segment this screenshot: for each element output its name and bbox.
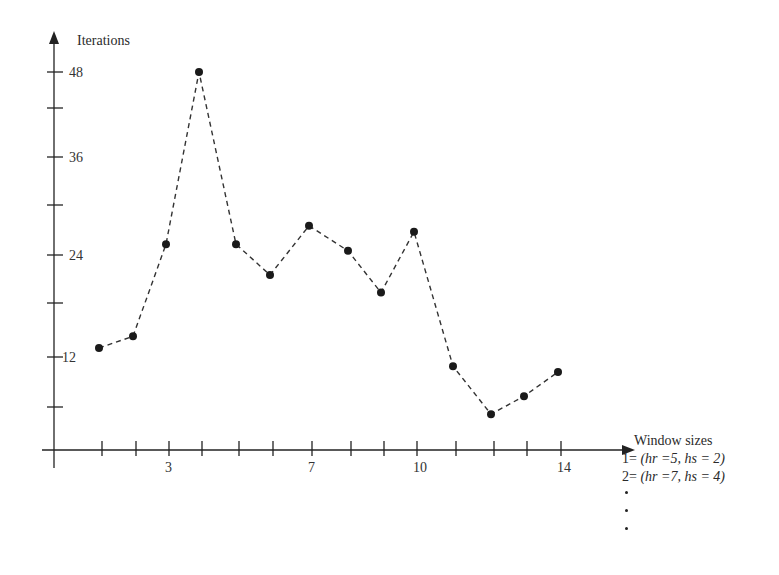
y-tick-label: 36 (69, 150, 83, 165)
chart-axes (42, 31, 635, 468)
x-tick-label: 3 (165, 460, 172, 475)
data-point (95, 344, 103, 352)
legend-entry-prefix: 1= (622, 451, 640, 466)
data-point (305, 222, 313, 230)
data-point (232, 240, 240, 248)
y-tick-label: 48 (69, 65, 83, 80)
legend-entry-text: (hr =7, hs = 4) (640, 469, 725, 484)
data-point (129, 332, 137, 340)
y-axis-title: Iterations (77, 34, 130, 48)
data-point (554, 368, 562, 376)
y-tick-label: 24 (69, 248, 83, 263)
x-tick-label: 7 (308, 460, 315, 475)
x-tick-label: 10 (413, 460, 427, 475)
data-point (377, 289, 385, 297)
data-point-markers (95, 68, 562, 418)
data-point (195, 68, 203, 76)
legend-entry-1: 1= (hr =5, hs = 2) (622, 452, 725, 466)
legend-entry-text: (hr =5, hs = 2) (640, 451, 725, 466)
line-chart: 37101412243648 (0, 0, 779, 575)
y-tick-label: 12 (62, 350, 76, 365)
legend-entry-2: 2= (hr =7, hs = 4) (622, 470, 725, 484)
data-point (449, 362, 457, 370)
legend-entry-prefix: 2= (622, 469, 640, 484)
x-tick-label: 14 (557, 460, 571, 475)
x-axis-title: Window sizes (634, 434, 712, 448)
ellipsis-dot (625, 491, 628, 494)
data-point (410, 228, 418, 236)
data-point (162, 240, 170, 248)
ellipsis-dot (625, 509, 628, 512)
axis-ticks (47, 72, 561, 456)
y-axis-arrow-icon (49, 31, 59, 44)
ellipsis-dot (625, 527, 628, 530)
data-point (520, 392, 528, 400)
data-point (487, 410, 495, 418)
data-point (266, 271, 274, 279)
data-point (344, 247, 352, 255)
